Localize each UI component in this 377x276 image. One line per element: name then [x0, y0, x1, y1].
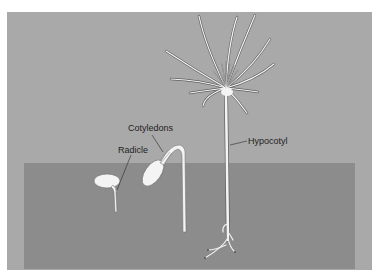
label-cotyledons: Cotyledons [128, 123, 173, 133]
soil-region [24, 163, 355, 269]
label-radicle: Radicle [118, 145, 148, 155]
diagram-canvas [0, 0, 377, 276]
label-hypocotyl: Hypocotyl [248, 136, 288, 146]
germination-diagram: Cotyledons Radicle Hypocotyl [0, 0, 377, 276]
